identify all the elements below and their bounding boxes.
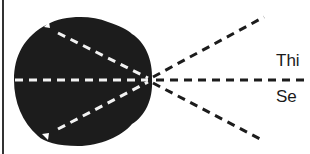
ray-diagram <box>0 0 310 154</box>
lens-notch-top <box>44 22 50 28</box>
outer-rays <box>153 17 310 141</box>
outer-ray-lower <box>153 83 264 141</box>
label-top: Thi <box>276 52 300 69</box>
label-bottom: Se <box>276 88 297 105</box>
outer-ray-upper <box>153 17 264 77</box>
